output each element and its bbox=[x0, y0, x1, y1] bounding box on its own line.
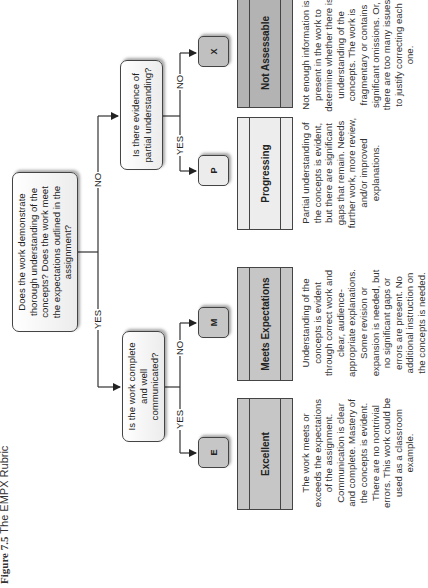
letter-box-x: X bbox=[198, 36, 229, 67]
outcome-progressing: Progressing bbox=[237, 117, 293, 230]
letter-e: E bbox=[209, 450, 219, 456]
outcome-meets-expectations: Meets Expectations bbox=[237, 267, 293, 381]
letter-box-m: M bbox=[198, 307, 229, 338]
letter-box-e: E bbox=[198, 437, 229, 468]
left-question-box: Is the work complete and well communicat… bbox=[122, 331, 165, 442]
outcome-title: Not Assessable bbox=[260, 16, 271, 90]
yes-branch-label: YES bbox=[175, 409, 185, 430]
letter-p: P bbox=[209, 168, 219, 174]
outcome-title: Progressing bbox=[260, 144, 271, 202]
description-excellent: The work meets or exceeds the expectatio… bbox=[300, 396, 416, 510]
root-question-text: Does the work demonstrate thorough under… bbox=[16, 179, 74, 325]
yes-branch-label: YES bbox=[93, 309, 103, 330]
letter-x: X bbox=[209, 49, 219, 55]
right-question-box: Is there evidence of partial understandi… bbox=[120, 60, 163, 170]
yes-branch-label: YES bbox=[175, 135, 185, 156]
no-branch-label: NO bbox=[93, 172, 103, 188]
outcome-excellent: Excellent bbox=[237, 398, 293, 510]
no-branch-label: NO bbox=[175, 74, 185, 90]
root-question-box: Does the work demonstrate thorough under… bbox=[12, 172, 78, 332]
letter-m: M bbox=[209, 319, 219, 327]
letter-box-p: P bbox=[198, 155, 229, 186]
left-question-text: Is the work complete and well communicat… bbox=[126, 338, 161, 435]
outcome-title: Excellent bbox=[260, 432, 271, 476]
description-not-assessable: Not enough information is present in the… bbox=[300, 0, 416, 112]
outcome-not-assessable: Not Assessable bbox=[237, 0, 293, 108]
description-meets-expectations: Understanding of the concepts is evident… bbox=[300, 265, 428, 381]
description-progressing: Partial understanding of the concepts is… bbox=[300, 116, 381, 230]
outcome-title: Meets Expectations bbox=[260, 277, 271, 370]
right-question-text: Is there evidence of partial understandi… bbox=[130, 67, 153, 163]
no-branch-label: NO bbox=[175, 340, 185, 356]
